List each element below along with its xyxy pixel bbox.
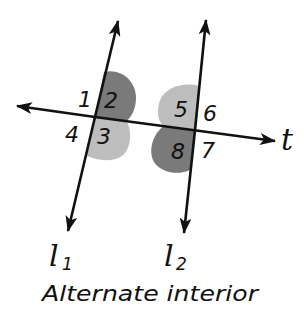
alternate-interior-angles-diagram: 1 2 3 4 5 6 7 8 t l 1 l 2 Alternate inte… xyxy=(0,0,304,310)
diagram-caption: Alternate interior xyxy=(40,282,260,306)
l2-subscript: 2 xyxy=(176,254,187,274)
l1-label: l xyxy=(49,238,59,273)
angle-label-7: 7 xyxy=(201,138,215,163)
transversal-label: t xyxy=(281,122,294,157)
angle-label-4: 4 xyxy=(65,122,79,147)
angle-label-2: 2 xyxy=(104,88,118,113)
angle-label-8: 8 xyxy=(171,139,185,164)
lines xyxy=(17,20,275,233)
l1-subscript: 1 xyxy=(62,254,73,274)
l2-label: l xyxy=(164,238,174,273)
angle-label-6: 6 xyxy=(203,101,217,126)
angle-label-5: 5 xyxy=(174,97,188,122)
angle-label-1: 1 xyxy=(78,87,92,112)
angle-label-3: 3 xyxy=(97,124,111,149)
